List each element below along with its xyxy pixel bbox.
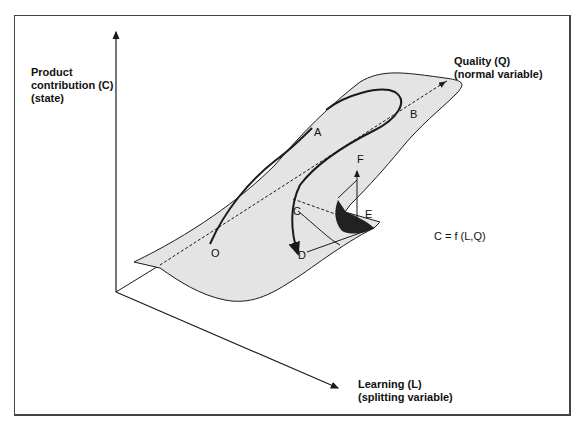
vertical-axis-label-line2: contribution (C) (31, 79, 113, 92)
quality-axis-label-line2: (normal variable) (454, 68, 543, 81)
vertical-axis-label-line3: (state) (31, 92, 113, 105)
point-a: A (314, 126, 321, 138)
quality-axis-label: Quality (Q) (normal variable) (454, 55, 543, 81)
equation-label: C = f (L,Q) (434, 230, 486, 242)
learning-axis-label: Learning (L) (splitting variable) (358, 378, 453, 404)
vertical-axis-label-line1: Product (31, 66, 113, 79)
quality-axis-label-line1: Quality (Q) (454, 55, 543, 68)
point-d: D (298, 249, 306, 261)
vertical-axis-label: Product contribution (C) (state) (31, 66, 113, 105)
learning-axis (116, 292, 338, 388)
point-c: C (293, 205, 301, 217)
back-axis-edge (116, 265, 160, 292)
learning-axis-label-line1: Learning (L) (358, 378, 453, 391)
point-e: E (365, 208, 372, 220)
point-b: B (410, 108, 417, 120)
point-f: F (357, 153, 364, 165)
point-o: O (211, 247, 220, 259)
learning-axis-label-line2: (splitting variable) (358, 391, 453, 404)
